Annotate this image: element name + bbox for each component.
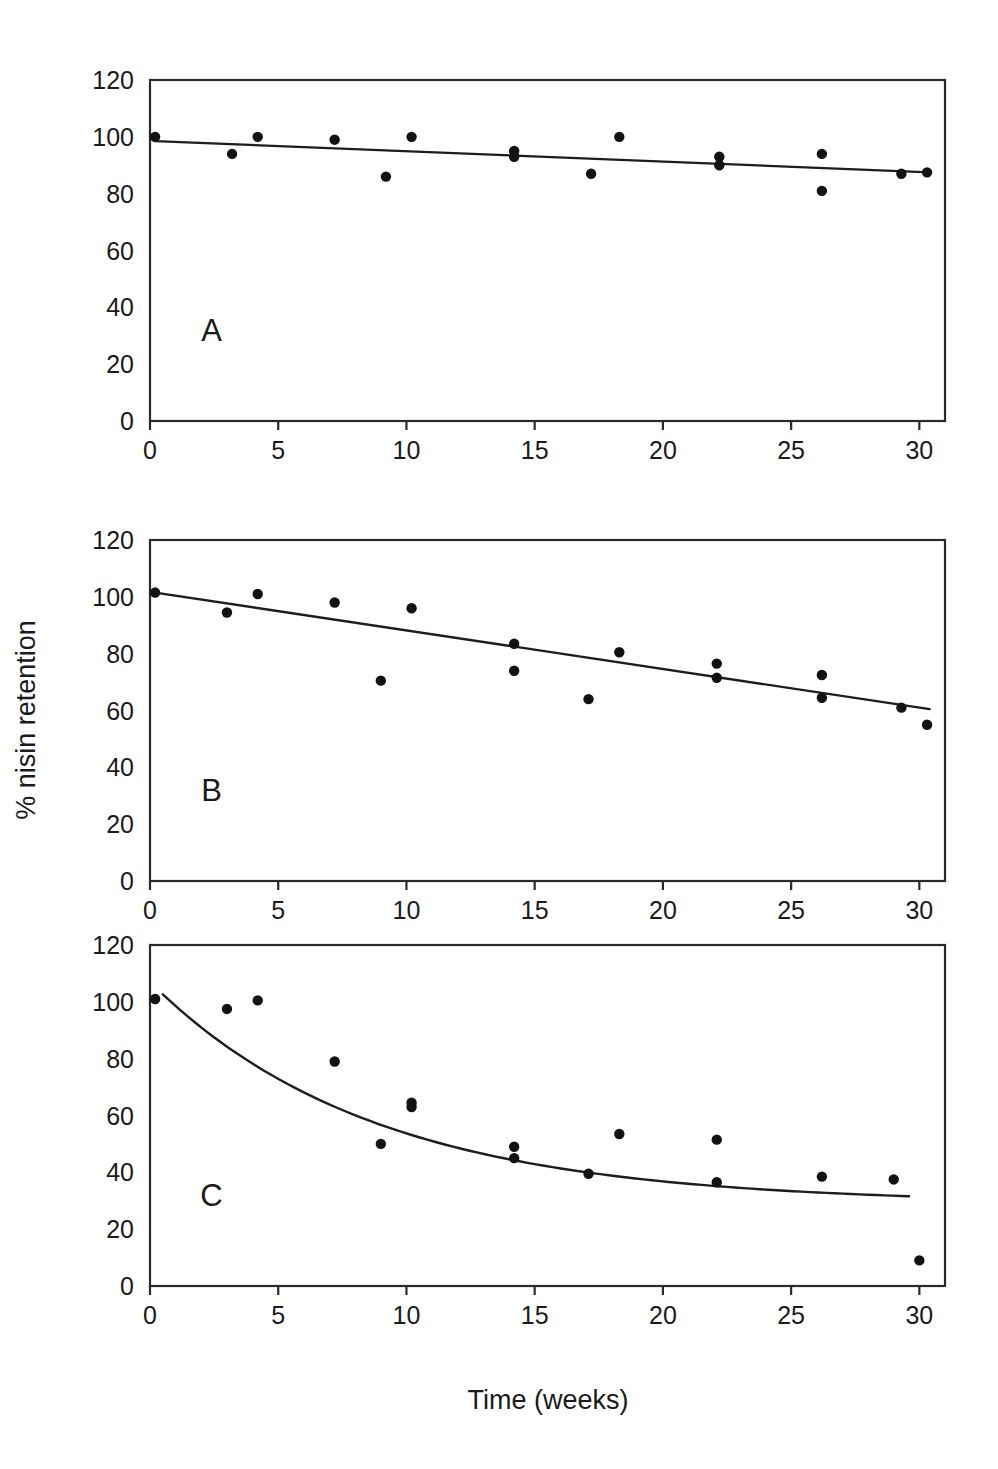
- x-tick-label: 30: [905, 436, 933, 464]
- x-axis-title: Time (weeks): [467, 1385, 628, 1415]
- data-point: [509, 1153, 519, 1163]
- y-axis-title-block: % nisin retention: [0, 520, 70, 920]
- data-point: [253, 995, 263, 1005]
- data-point: [817, 186, 827, 196]
- data-point: [896, 702, 906, 712]
- data-point: [150, 587, 160, 597]
- trend-line: [155, 593, 929, 710]
- data-point: [614, 132, 624, 142]
- x-tick-label: 0: [143, 436, 157, 464]
- y-tick-label: 40: [106, 753, 134, 781]
- y-tick-label: 100: [92, 123, 134, 151]
- data-point: [583, 1169, 593, 1179]
- data-point: [889, 1174, 899, 1184]
- data-point: [150, 132, 160, 142]
- x-tick-label: 0: [143, 1301, 157, 1329]
- data-point: [253, 132, 263, 142]
- data-point: [896, 169, 906, 179]
- data-point: [922, 720, 932, 730]
- y-tick-label: 20: [106, 350, 134, 378]
- data-point: [329, 134, 339, 144]
- x-tick-label: 25: [777, 1301, 805, 1329]
- plot-frame: [150, 945, 945, 1286]
- data-point: [714, 160, 724, 170]
- data-point: [381, 171, 391, 181]
- data-point: [817, 149, 827, 159]
- data-point: [227, 149, 237, 159]
- data-point: [614, 1129, 624, 1139]
- data-point: [329, 597, 339, 607]
- y-tick-label: 20: [106, 810, 134, 838]
- chart-panel-a: 020406080100120051015202530A: [0, 40, 998, 470]
- data-point: [914, 1255, 924, 1265]
- panel-letter: A: [201, 313, 222, 348]
- chart-panel-b: 020406080100120051015202530B: [0, 500, 998, 930]
- panel-letter: B: [201, 773, 222, 808]
- x-tick-label: 5: [271, 436, 285, 464]
- data-point: [253, 589, 263, 599]
- data-point: [712, 673, 722, 683]
- y-tick-label: 0: [120, 1272, 134, 1300]
- x-tick-label: 10: [393, 1301, 421, 1329]
- x-tick-label: 5: [271, 1301, 285, 1329]
- data-point: [817, 693, 827, 703]
- panel-letter: C: [200, 1178, 222, 1213]
- data-point: [509, 639, 519, 649]
- data-point: [586, 169, 596, 179]
- data-point: [614, 647, 624, 657]
- y-tick-label: 20: [106, 1215, 134, 1243]
- x-tick-label: 25: [777, 436, 805, 464]
- y-tick-label: 100: [92, 583, 134, 611]
- y-tick-label: 80: [106, 640, 134, 668]
- plot-frame: [150, 540, 945, 881]
- x-tick-label: 20: [649, 1301, 677, 1329]
- data-point: [150, 994, 160, 1004]
- trend-line: [163, 994, 909, 1196]
- x-tick-label: 10: [393, 436, 421, 464]
- x-tick-label: 20: [649, 436, 677, 464]
- x-axis-title-block: Time (weeks): [0, 1375, 998, 1435]
- data-point: [509, 666, 519, 676]
- x-tick-label: 30: [905, 1301, 933, 1329]
- y-tick-label: 120: [92, 66, 134, 94]
- data-point: [509, 1142, 519, 1152]
- plot-frame: [150, 80, 945, 421]
- chart-panel-c: 020406080100120051015202530C: [0, 905, 998, 1335]
- nisin-retention-figure: 020406080100120051015202530A 02040608010…: [0, 0, 998, 1469]
- data-point: [817, 670, 827, 680]
- x-tick-label: 15: [521, 436, 549, 464]
- data-point: [406, 603, 416, 613]
- data-point: [329, 1056, 339, 1066]
- data-point: [406, 1102, 416, 1112]
- y-tick-label: 60: [106, 697, 134, 725]
- data-point: [712, 1177, 722, 1187]
- data-point: [712, 1134, 722, 1144]
- trend-line: [155, 141, 929, 172]
- y-tick-label: 60: [106, 1102, 134, 1130]
- data-point: [376, 1139, 386, 1149]
- data-point: [222, 607, 232, 617]
- data-point: [509, 152, 519, 162]
- y-tick-label: 60: [106, 237, 134, 265]
- y-tick-label: 80: [106, 1045, 134, 1073]
- y-tick-label: 40: [106, 1158, 134, 1186]
- data-point: [583, 694, 593, 704]
- data-point: [922, 167, 932, 177]
- data-point: [222, 1004, 232, 1014]
- y-axis-title: % nisin retention: [11, 620, 41, 820]
- y-tick-label: 120: [92, 526, 134, 554]
- data-point: [712, 658, 722, 668]
- data-point: [376, 675, 386, 685]
- y-tick-label: 100: [92, 988, 134, 1016]
- data-point: [406, 132, 416, 142]
- y-tick-label: 120: [92, 931, 134, 959]
- y-tick-label: 0: [120, 407, 134, 435]
- y-tick-label: 0: [120, 867, 134, 895]
- data-point: [817, 1171, 827, 1181]
- x-tick-label: 15: [521, 1301, 549, 1329]
- y-tick-label: 40: [106, 293, 134, 321]
- y-tick-label: 80: [106, 180, 134, 208]
